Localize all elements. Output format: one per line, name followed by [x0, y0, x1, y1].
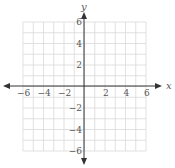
coordinate-plane: x y −6−4−2246−6−4−2246 — [0, 0, 175, 168]
x-tick-label: −4 — [38, 88, 52, 98]
x-tick-label: 4 — [124, 88, 130, 98]
x-axis-left-arrow-icon — [3, 83, 10, 89]
x-tick-label: −6 — [17, 88, 31, 98]
x-tick-label: 6 — [144, 88, 150, 98]
y-tick-label: 2 — [76, 60, 82, 70]
y-tick-label: −6 — [69, 146, 83, 156]
y-axis-label: y — [80, 1, 87, 12]
y-tick-label: −4 — [69, 125, 83, 135]
x-axis-right-arrow-icon — [155, 83, 162, 89]
x-axis-label: x — [166, 80, 172, 91]
y-axis-bottom-arrow-icon — [81, 158, 87, 165]
y-tick-label: 6 — [76, 17, 82, 27]
x-tick-label: −2 — [58, 88, 71, 98]
y-tick-label: 4 — [76, 39, 82, 49]
y-tick-label: −2 — [69, 103, 82, 113]
x-tick-label: 2 — [103, 88, 109, 98]
